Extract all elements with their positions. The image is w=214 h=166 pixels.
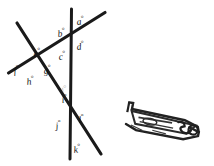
- angle-label-g: g°: [43, 64, 52, 76]
- angle-label-a: a°: [76, 15, 85, 27]
- degree-symbol-h: °: [31, 74, 35, 82]
- degree-symbol-g: °: [48, 63, 52, 71]
- angle-label-d: d°: [76, 40, 85, 52]
- ink-sketch-blob: [124, 102, 202, 142]
- degree-symbol-b: °: [62, 26, 66, 34]
- angle-label-k: k°: [73, 143, 81, 155]
- rising-diagonal-line: [9, 13, 106, 74]
- angle-label-h: h°: [26, 75, 35, 87]
- degree-symbol-a: °: [81, 14, 85, 22]
- degree-symbol-d: °: [81, 39, 85, 47]
- angle-label-e: e°: [33, 47, 41, 59]
- angle-label-b: b°: [57, 27, 66, 39]
- sketch-tail: [127, 102, 129, 112]
- geometry-figure: ı° a° b° c° d° e° f° g° h° i° j° k° l°: [0, 0, 214, 166]
- ink-sketch-group: [124, 102, 202, 142]
- vertical-line: [70, 9, 72, 159]
- angle-label-c: c°: [58, 50, 66, 62]
